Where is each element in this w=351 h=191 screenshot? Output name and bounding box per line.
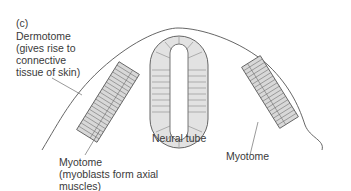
dermotome-label: Dermotome (gives rise to connective tiss…: [16, 30, 80, 78]
neural-tube-label: Neural tube: [152, 132, 206, 144]
myotome-left-label: Myotome (myoblasts form axial muscles): [59, 156, 158, 191]
embryo-cross-section-drawing: [0, 0, 351, 191]
dermotome-leader: [52, 78, 82, 95]
left-myotome-shape: [77, 62, 140, 143]
myotome-right-label: Myotome: [226, 150, 269, 162]
panel-label: (c): [16, 17, 28, 29]
